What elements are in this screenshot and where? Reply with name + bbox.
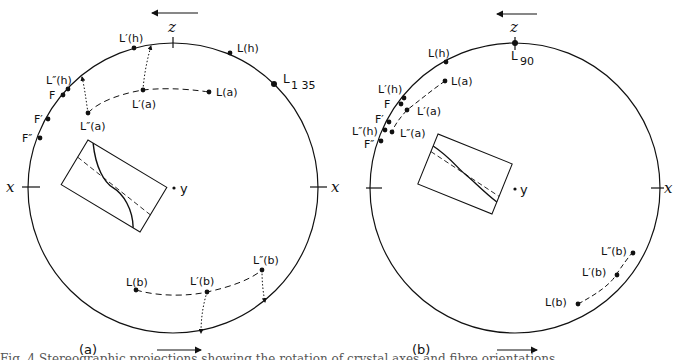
z-axis-label: z (509, 18, 518, 36)
label-L1b: L′(b) (582, 266, 606, 279)
point-L90 (512, 40, 518, 46)
label-L135: L (283, 72, 290, 86)
point-L2b (631, 251, 636, 256)
label-Lb: L(b) (126, 276, 148, 289)
y-center-dot (172, 186, 175, 189)
point-F1 (46, 117, 51, 122)
rotation-arrow-L2a (82, 77, 88, 113)
label-L1h: L′(h) (378, 83, 402, 96)
rotation-arrow-L1a (143, 46, 151, 90)
point-F1 (387, 120, 392, 125)
label-L135-sub: 1 35 (291, 79, 316, 92)
point-F2 (379, 139, 384, 144)
label-Lh: L(h) (428, 47, 450, 60)
label-La: L(a) (216, 86, 237, 99)
figure-caption-fragment: Fig. 4 Stereographic projections showing… (0, 352, 679, 360)
point-L1a (405, 108, 410, 113)
label-F: F (384, 98, 390, 111)
point-L2h (66, 87, 71, 92)
label-L1a: L′(a) (132, 98, 156, 111)
inset-crystal-b (418, 134, 512, 214)
y-center-dot (513, 187, 516, 190)
label-L2a: L″(a) (400, 127, 426, 140)
label-La: L(a) (451, 75, 472, 88)
x-axis-label-right: x (331, 178, 340, 196)
x-axis-label-right: x (664, 179, 673, 197)
point-L1b (205, 290, 210, 295)
y-label: y (180, 181, 188, 196)
point-L1h (132, 46, 137, 51)
label-L2h: L″(h) (46, 74, 72, 87)
rotation-arrow-L2b (262, 270, 265, 302)
panel-a: z x x y L′(h) L(h) L 1 35 L″(h) F (6, 13, 340, 357)
point-La (443, 79, 448, 84)
point-L1b (615, 273, 620, 278)
panel-b: z L 90 x y L(h) L(a) L′(h) F L′(a) F′ L (352, 14, 673, 357)
point-L2h (383, 128, 388, 133)
point-L2b (260, 268, 265, 273)
label-L2b: L″(b) (601, 245, 627, 258)
inset-crystal-a (61, 140, 167, 232)
point-L2a (390, 130, 395, 135)
label-L2a: L″(a) (80, 120, 106, 133)
label-F: F (49, 89, 55, 102)
point-L2a (86, 111, 91, 116)
x-axis-label-left: x (6, 178, 15, 196)
label-L1a: L′(a) (417, 105, 441, 118)
stereographic-figure: z x x y L′(h) L(h) L 1 35 L″(h) F (0, 0, 679, 360)
y-label: y (520, 182, 528, 197)
label-L1b: L′(b) (190, 275, 214, 288)
point-La (207, 90, 212, 95)
label-L2b: L″(b) (253, 254, 279, 267)
label-F2: F″ (22, 132, 32, 145)
label-Lh: L(h) (237, 42, 259, 55)
point-L1h (402, 96, 407, 101)
point-L1a (141, 88, 146, 93)
label-L2h: L″(h) (352, 125, 378, 138)
point-F2 (38, 136, 43, 141)
label-L1h: L′(h) (119, 32, 143, 45)
label-F2: F″ (364, 138, 374, 151)
point-Lh (228, 51, 233, 56)
label-L90-sub: 90 (520, 55, 534, 68)
point-L135 (271, 81, 277, 87)
point-F (61, 93, 66, 98)
z-axis-label: z (167, 18, 176, 36)
point-F (399, 102, 404, 107)
point-Lb (576, 302, 581, 307)
point-Lh (444, 60, 449, 65)
label-Lb: L(b) (545, 296, 567, 309)
rotation-arrow-L1b (201, 292, 207, 333)
label-F1: F′ (34, 113, 43, 126)
label-L90: L (511, 49, 518, 63)
